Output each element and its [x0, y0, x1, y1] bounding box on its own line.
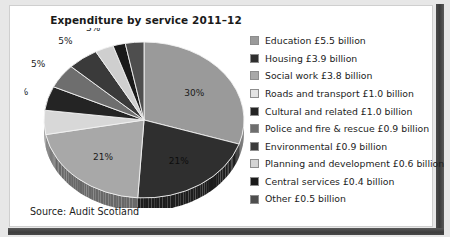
legend-item[interactable]: Education £5.5 billion: [250, 32, 442, 50]
pie-slice-side: [93, 187, 95, 201]
legend-label: Roads and transport £1.0 billion: [265, 89, 414, 98]
pie-slice-side: [68, 171, 70, 186]
pie-slice-side: [205, 181, 207, 195]
legend-swatch: [250, 124, 259, 133]
pie-slice-side: [209, 178, 211, 192]
pie-slice-side: [191, 188, 193, 202]
pie-slice-side: [103, 191, 106, 205]
pie-slice-side: [193, 187, 195, 201]
pie-slice-side: [76, 177, 78, 191]
chart-legend: Education £5.5 billionHousing £3.9 billi…: [250, 32, 442, 208]
legend-swatch: [250, 54, 259, 63]
legend-label: Central services £0.4 billion: [265, 177, 394, 186]
pie-chart: Education £5.5 billion (30%)Housing £3.9…: [24, 28, 252, 208]
pie-slice-side: [82, 181, 84, 195]
pie-slice-side: [70, 172, 72, 187]
legend-item[interactable]: Environmental £0.9 billion: [250, 138, 442, 156]
pie-slice-side: [188, 189, 190, 203]
pie-slice-side: [202, 182, 204, 196]
legend-label: Other £0.5 billion: [265, 194, 346, 203]
pie-slice-side: [66, 169, 68, 184]
source-caption: Source: Audit Scotland: [30, 206, 139, 217]
pie-slice-side: [213, 175, 215, 190]
pie-slice-percent-label: 5%: [31, 59, 46, 69]
legend-item[interactable]: Planning and development £0.6 billion: [250, 155, 442, 173]
pie-slice-side: [181, 192, 184, 206]
pie-top-faces: Education £5.5 billion (30%)Housing £3.9…: [44, 42, 244, 198]
legend-item[interactable]: Housing £3.9 billion: [250, 50, 442, 68]
legend-swatch: [250, 89, 259, 98]
pie-slice-side: [154, 197, 157, 208]
pie-slice-side: [215, 173, 217, 188]
pie-slice-side: [183, 191, 186, 205]
pie-slice-side: [96, 188, 98, 202]
pie-slice-side: [165, 196, 168, 208]
pie-slice-side: [200, 183, 202, 197]
legend-swatch: [250, 159, 259, 168]
pie-slice-side: [211, 176, 213, 190]
pie-slice-side: [106, 192, 109, 206]
pie-slice-side: [170, 195, 173, 208]
pie-slice-side: [143, 198, 146, 208]
legend-swatch: [250, 107, 259, 116]
screenshot-root: Expenditure by service 2011–12 Education…: [0, 0, 450, 237]
legend-swatch: [250, 71, 259, 80]
pie-slice-side: [149, 198, 152, 208]
legend-item[interactable]: Police and fire & rescue £0.9 billion: [250, 120, 442, 138]
legend-item[interactable]: Central services £0.4 billion: [250, 173, 442, 191]
legend-swatch: [250, 195, 259, 204]
pie-slice-side: [196, 186, 198, 200]
pie-slice-side: [98, 189, 100, 203]
legend-swatch: [250, 177, 259, 186]
pie-chart-svg: Education £5.5 billion (30%)Housing £3.9…: [24, 28, 252, 208]
pie-slice-side: [173, 194, 176, 208]
pie-slice-percent-label: 5%: [24, 87, 29, 97]
pie-slice-side: [207, 179, 209, 193]
legend-item[interactable]: Roads and transport £1.0 billion: [250, 85, 442, 103]
pie-slice-side: [198, 185, 200, 199]
pie-slice-side: [78, 179, 80, 193]
pie-slice-side: [176, 193, 179, 207]
pie-slice-percent-label: 21%: [169, 156, 189, 166]
pie-slice-side: [140, 198, 143, 208]
legend-label: Social work £3.8 billion: [265, 71, 372, 80]
legend-label: Housing £3.9 billion: [265, 54, 357, 63]
legend-label: Police and fire & rescue £0.9 billion: [265, 124, 429, 133]
pie-slice-side: [219, 170, 221, 185]
pie-slice-side: [80, 180, 82, 194]
pie-slice-percent-label: 30%: [184, 88, 204, 98]
legend-label: Education £5.5 billion: [265, 36, 366, 45]
legend-swatch: [250, 142, 259, 151]
pie-slice-side: [146, 198, 149, 208]
chart-card: Expenditure by service 2011–12 Education…: [9, 5, 433, 227]
legend-label: Planning and development £0.6 billion: [265, 159, 444, 168]
legend-item[interactable]: Cultural and related £1.0 billion: [250, 102, 442, 120]
pie-slice-side: [162, 196, 165, 208]
bottom-edge-bar: [8, 228, 444, 235]
pie-slice-percent-label: 21%: [93, 152, 113, 162]
pie-slice-side: [65, 168, 67, 183]
pie-slice-side: [84, 183, 86, 197]
pie-slice-percent-label: 3%: [86, 28, 101, 33]
chart-title: Expenditure by service 2011–12: [36, 14, 256, 26]
pie-slice-side: [108, 193, 111, 207]
pie-slice-side: [74, 176, 76, 190]
legend-label: Cultural and related £1.0 billion: [265, 107, 412, 116]
pie-slice-side: [157, 197, 160, 208]
legend-item[interactable]: Other £0.5 billion: [250, 190, 442, 208]
pie-slice-side: [151, 198, 154, 208]
pie-slice-side: [89, 185, 91, 199]
pie-slice-percent-label: 5%: [58, 36, 73, 46]
pie-slice-side: [72, 174, 74, 189]
pie-slice-side: [86, 184, 88, 198]
pie-slice-side: [217, 172, 219, 187]
legend-label: Environmental £0.9 billion: [265, 142, 387, 151]
legend-swatch: [250, 36, 259, 45]
pie-slice-side: [91, 186, 93, 200]
pie-slice-side: [160, 197, 163, 208]
pie-slice-side: [168, 195, 171, 208]
pie-slice-side: [178, 193, 181, 207]
pie-slice-side: [101, 190, 103, 204]
legend-item[interactable]: Social work £3.8 billion: [250, 67, 442, 85]
pie-slice-side: [186, 190, 188, 204]
